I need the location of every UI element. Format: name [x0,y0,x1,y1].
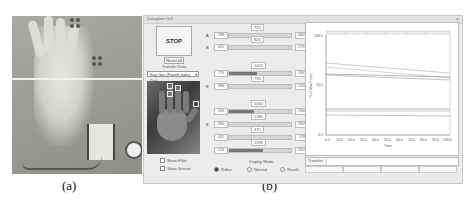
finger [159,91,165,113]
slider-track[interactable] [228,84,292,89]
display-mode-normal-radio[interactable]: Normal [247,167,267,172]
slider-channel: E [206,84,209,89]
show-sensor-checkbox[interactable]: Show Sensor [160,166,191,171]
slider-fill [229,149,263,152]
status-cell [305,166,343,173]
finger [167,85,173,113]
svg-text:100.0: 100.0 [443,138,452,142]
stop-button[interactable]: STOP [156,26,192,56]
force-chart: 100.0 10.0 0.0 0.010.020.030.040.050.060… [305,22,459,156]
slider-value: 722 [251,24,264,31]
transfer-data-label: Transfer Data [162,64,186,69]
wrist-band [87,124,115,160]
slider-channel: B [206,45,209,50]
checkbox-icon [160,158,165,163]
status-cell [419,166,457,173]
svg-text:Time: Time [384,144,392,148]
slider-value: 1060 [251,100,266,107]
slider-min-field[interactable]: 825 [214,44,228,51]
app-window: Dataglove GUI × STOP Reset all Transfer … [143,15,463,184]
status-label: Transfer [308,158,323,163]
slider-value: 1021 [251,62,266,69]
slider-value: 796 [251,75,264,82]
caption-a: (a) [62,178,76,194]
display-mode-rebar-radio[interactable]: Rebar [214,167,232,172]
finger [183,91,189,113]
slider-value: 1385 [251,113,266,120]
palm [157,109,187,141]
chevron-down-icon: ▾ [195,72,197,78]
sensor-pads-icon [92,56,106,70]
sensor-marker-icon [175,85,181,91]
sensor-marker-icon [167,91,173,97]
hand-image [147,81,200,154]
slider-track[interactable] [228,45,292,50]
status-bar: Transfer [305,157,459,166]
svg-text:40.0: 40.0 [372,138,379,142]
svg-text:30.0: 30.0 [360,138,367,142]
svg-text:% of Max Force: % of Max Force [309,73,313,98]
status-field [326,158,458,165]
svg-text:0.0: 0.0 [325,138,330,142]
svg-text:90.0: 90.0 [432,138,439,142]
cable [22,156,102,170]
sensor-marker-icon [193,101,199,107]
data-glove-photo [12,16,142,174]
radio-icon [247,167,252,172]
show-fillet-checkbox[interactable]: Show Fillet [160,158,187,163]
svg-text:20.0: 20.0 [348,138,355,142]
svg-text:10.0: 10.0 [336,138,343,142]
status-cells [305,166,457,173]
svg-text:100.0: 100.0 [314,34,323,38]
slider-value: 475 [251,126,264,133]
status-cell [381,166,419,173]
slider-track[interactable] [228,148,292,153]
radio-label: Normal [254,167,267,172]
glove-finger [56,18,65,56]
svg-text:60.0: 60.0 [396,138,403,142]
wrist-sensor-icon [125,141,142,159]
slider-value: 1198 [251,139,266,146]
display-mode-label: Display Mode [249,159,273,164]
show-fillet-label: Show Fillet [167,158,187,163]
svg-text:0.0: 0.0 [318,133,323,137]
chart-svg: 100.0 10.0 0.0 0.010.020.030.040.050.060… [306,23,458,155]
svg-text:50.0: 50.0 [384,138,391,142]
mode-select[interactable]: Key Gen (Fourth index Dat) ▾ [147,71,199,77]
radio-label: Result [287,167,298,172]
reset-all-button[interactable]: Reset all [164,57,184,64]
checkbox-icon [160,166,165,171]
slider-value: 825 [251,36,264,43]
sensor-marker-icon [167,83,173,89]
slider-min-field[interactable]: 896 [214,83,228,90]
radio-icon [280,167,285,172]
radio-selected-icon [214,167,219,172]
slider-min-field[interactable]: 528 [214,147,228,154]
svg-text:70.0: 70.0 [408,138,415,142]
svg-text:80.0: 80.0 [420,138,427,142]
divider-line [12,78,142,80]
sensor-pads-icon [70,18,84,32]
window-title: Dataglove GUI [147,16,173,21]
glove-finger [44,16,53,54]
display-mode-result-radio[interactable]: Result [280,167,298,172]
radio-label: Rebar [221,167,232,172]
svg-text:10.0: 10.0 [316,83,323,87]
show-sensor-label: Show Sensor [167,166,191,171]
status-cell [343,166,381,173]
